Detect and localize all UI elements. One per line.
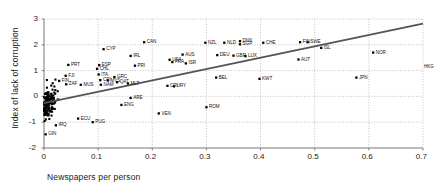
point-label: GBR: [236, 53, 246, 58]
data-point-labeled: [299, 41, 301, 43]
point-label: CHL: [100, 66, 109, 71]
point-label: MLT: [131, 81, 140, 86]
data-point-labeled: [239, 43, 241, 45]
data-point-labeled: [297, 58, 299, 60]
data-point: [57, 90, 59, 92]
point-label: DEU: [220, 52, 230, 57]
data-point: [46, 87, 48, 89]
data-point-labeled: [216, 54, 218, 56]
data-point-labeled: [98, 73, 100, 75]
point-label: ECU: [81, 116, 91, 121]
data-point: [47, 92, 49, 94]
data-point: [47, 110, 49, 112]
data-point: [47, 97, 49, 99]
data-point: [46, 94, 48, 96]
x-tick-label: 0.2: [145, 152, 156, 161]
x-tick-label: 0.6: [362, 152, 373, 161]
data-point: [52, 94, 54, 96]
data-point: [44, 120, 46, 122]
point-label: PRI: [138, 63, 146, 68]
data-point-labeled: [129, 97, 131, 99]
data-point-labeled: [120, 104, 122, 106]
data-point: [53, 85, 55, 87]
point-label: URY: [177, 83, 186, 88]
data-point-labeled: [100, 84, 102, 86]
data-point-labeled: [44, 133, 46, 135]
data-point: [51, 89, 53, 91]
point-label: ARE: [133, 95, 142, 100]
data-point-labeled: [65, 83, 67, 85]
scatter-plot-canvas: [0, 0, 445, 196]
data-point-labeled: [129, 55, 131, 57]
x-axis-title: Newspapers per person: [47, 172, 140, 182]
data-point-labeled: [232, 54, 234, 56]
data-point-labeled: [166, 85, 168, 87]
data-point: [50, 97, 52, 99]
data-point-labeled: [65, 75, 67, 77]
point-label: PUG: [95, 119, 105, 124]
point-label: MUS: [83, 82, 93, 87]
data-point-labeled: [372, 51, 374, 53]
point-label: ITA: [101, 72, 108, 77]
point-label: PRT: [71, 62, 80, 67]
data-point: [54, 79, 56, 81]
x-tick-label: 0.5: [308, 152, 319, 161]
data-point-labeled: [205, 106, 207, 108]
data-point: [50, 85, 52, 87]
chart-figure: Newspapers per person Index of lack of c…: [0, 0, 445, 196]
data-point: [45, 104, 47, 106]
point-label: KWT: [262, 76, 272, 81]
data-point-labeled: [158, 112, 160, 114]
point-label: CHE: [266, 40, 276, 45]
point-label: FIN: [303, 39, 310, 44]
point-label: NZL: [208, 40, 217, 45]
data-point: [49, 93, 51, 95]
point-label: AUS: [185, 52, 194, 57]
data-point-labeled: [185, 62, 187, 64]
data-point-labeled: [99, 79, 101, 81]
data-point: [49, 111, 51, 113]
x-tick-label: 0.7: [416, 152, 427, 161]
x-tick-label: 0.1: [91, 152, 102, 161]
data-point-labeled: [258, 78, 260, 80]
data-point: [44, 109, 46, 111]
point-label: IRL: [133, 53, 140, 58]
data-point: [50, 115, 52, 117]
point-label: CYP: [106, 46, 115, 51]
data-point-labeled: [215, 76, 217, 78]
data-point: [48, 108, 50, 110]
point-label: SGP: [243, 41, 253, 46]
data-point-labeled: [320, 47, 322, 49]
y-axis-title: Index of lack of corruption: [10, 18, 20, 138]
data-point: [48, 118, 50, 120]
data-point: [45, 97, 47, 99]
data-point: [51, 108, 53, 110]
y-tick-label: 1: [33, 66, 37, 75]
point-label: SWE: [310, 39, 320, 44]
data-point: [43, 107, 45, 109]
point-label: CAN: [147, 39, 157, 44]
data-point: [46, 79, 48, 81]
data-point: [54, 93, 56, 95]
data-point-labeled: [181, 53, 183, 55]
point-label: NAM: [103, 82, 113, 87]
data-point-labeled: [239, 40, 241, 42]
data-point-labeled: [77, 117, 79, 119]
point-label: AUT: [301, 57, 310, 62]
point-label: FRA: [175, 59, 184, 64]
point-label: IRQ: [59, 122, 67, 127]
data-point-labeled: [80, 84, 82, 86]
point-label: JPN: [359, 75, 368, 80]
point-label: NLD: [227, 40, 236, 45]
data-point-labeled: [102, 48, 104, 50]
data-point: [45, 93, 47, 95]
data-point-labeled: [55, 124, 57, 126]
point-label: VEN: [161, 111, 170, 116]
point-label: HKG: [424, 64, 434, 69]
data-point: [52, 82, 54, 84]
point-label: FJI: [68, 73, 74, 78]
data-point: [54, 108, 56, 110]
point-label: ISL: [324, 45, 331, 50]
point-label: QAT: [120, 79, 129, 84]
data-point-labeled: [223, 42, 225, 44]
